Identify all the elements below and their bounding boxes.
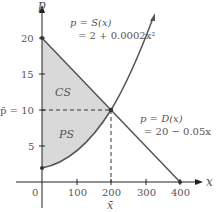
demand-label-line1: p = D(x)	[140, 113, 183, 124]
xbar-label: x̄	[107, 199, 114, 212]
p-axis-label: p	[38, 0, 46, 12]
supply-label-line2: = 2 + 0.0002x²	[78, 30, 155, 41]
supply-label-line1: p = S(x)	[70, 17, 112, 28]
surplus-chart: p x 20 15 p̄ = 10 5 0 100 200 300 400 x̄…	[0, 0, 216, 212]
y-tick-15: 15	[21, 69, 34, 80]
demand-label-line2: = 20 − 0.05x	[144, 126, 211, 137]
demand-x-intercept-point	[178, 180, 182, 184]
x-tick-100: 100	[68, 187, 87, 198]
x-axis-label: x	[206, 175, 213, 189]
origin-label: 0	[32, 187, 38, 198]
supply-intercept-point	[40, 166, 44, 170]
cs-label: CS	[55, 86, 71, 99]
producer-surplus-region	[42, 110, 111, 168]
y-tick-5: 5	[28, 141, 34, 152]
x-tick-300: 300	[137, 187, 156, 198]
ps-label: PS	[58, 128, 74, 141]
y-tick-20: 20	[21, 33, 34, 44]
demand-intercept-point	[40, 36, 44, 40]
x-axis-arrow-icon	[195, 179, 203, 185]
x-tick-200: 200	[102, 187, 121, 198]
supply-arrow-icon	[150, 13, 155, 21]
pbar-label: p̄ = 10	[0, 105, 34, 116]
equilibrium-point	[109, 108, 113, 112]
x-tick-400: 400	[171, 187, 190, 198]
